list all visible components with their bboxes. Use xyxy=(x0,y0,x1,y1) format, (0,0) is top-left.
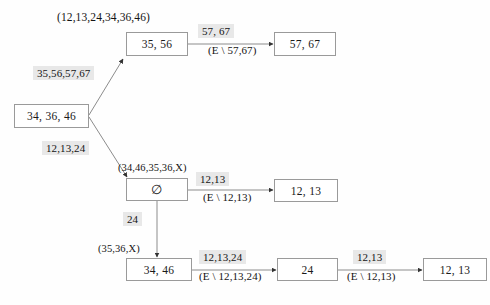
label-lower-branch: 12,13,24 xyxy=(42,141,89,155)
label-bottom-node-tag: (35,36,X) xyxy=(98,243,140,254)
node-lower-mid-label: ∅ xyxy=(151,182,162,198)
node-bottom-left: 34, 46 xyxy=(126,258,192,281)
label-bottom-second-bottom: (E \ 12,13) xyxy=(347,270,395,282)
node-bottom-mid-label: 24 xyxy=(301,264,313,276)
label-lower-right-bottom: (E \ 12,13) xyxy=(203,191,251,203)
label-top-universe: (12,13,24,34,36,46) xyxy=(57,11,150,23)
node-bottom-mid: 24 xyxy=(277,258,338,281)
label-lower-node-tag: (34,46,35,36,X) xyxy=(118,162,187,173)
node-upper-mid-label: 35, 56 xyxy=(142,38,173,50)
node-bottom-right: 12, 13 xyxy=(423,258,487,281)
label-vertical-edge: 24 xyxy=(123,212,142,226)
node-bottom-right-label: 12, 13 xyxy=(440,264,471,276)
node-upper-right-label: 57, 67 xyxy=(290,38,321,50)
label-upper-right-bottom: (E \ 57,67) xyxy=(208,44,256,56)
label-upper-branch: 35,56,57,67 xyxy=(33,66,94,80)
label-lower-right-top: 12,13 xyxy=(196,172,229,186)
node-upper-mid: 35, 56 xyxy=(126,32,188,56)
node-lower-mid: ∅ xyxy=(126,178,188,201)
node-upper-right: 57, 67 xyxy=(274,32,336,56)
node-lower-right: 12, 13 xyxy=(274,179,338,202)
label-bottom-first-bottom: (E \ 12,13,24) xyxy=(199,270,262,282)
node-lower-right-label: 12, 13 xyxy=(291,185,322,197)
diagram-canvas: 34, 36, 46 35, 56 57, 67 ∅ 12, 13 34, 46… xyxy=(0,0,490,305)
label-bottom-second-top: 12,13 xyxy=(353,250,386,264)
node-root-label: 34, 36, 46 xyxy=(27,110,76,122)
node-root: 34, 36, 46 xyxy=(14,104,89,128)
label-upper-right-top: 57, 67 xyxy=(198,24,234,38)
label-bottom-first-top: 12,13,24 xyxy=(199,250,246,264)
node-bottom-left-label: 34, 46 xyxy=(144,264,175,276)
